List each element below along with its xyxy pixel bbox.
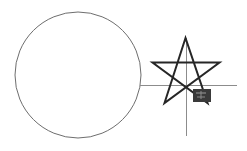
drawing-svg xyxy=(0,0,247,151)
marker-rectangle xyxy=(193,89,211,102)
marker-group xyxy=(193,89,211,102)
drawing-canvas xyxy=(0,0,247,151)
canvas-background xyxy=(0,0,247,151)
